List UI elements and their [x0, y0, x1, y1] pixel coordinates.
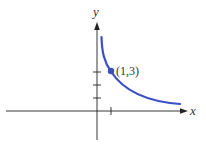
point-label: (1,3): [116, 65, 139, 77]
x-axis-label: x: [190, 104, 196, 117]
y-axis: [93, 22, 101, 140]
y-axis-label: y: [93, 5, 99, 18]
y-axis-arrow-icon: [94, 22, 100, 30]
point-1-3-marker: [108, 68, 114, 74]
x-axis-arrow-icon: [180, 108, 188, 114]
graph-plot: [0, 0, 206, 145]
